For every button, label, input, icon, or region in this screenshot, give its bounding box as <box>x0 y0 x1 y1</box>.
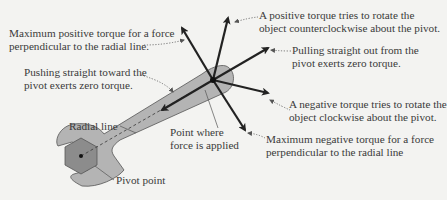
label-radial-line: Radial line <box>69 120 118 133</box>
force-point-dot <box>210 77 216 83</box>
label-pivot-point: Pivot point <box>116 174 165 187</box>
label-pushing: Pushing straight toward the pivot exerts… <box>24 66 147 91</box>
arrow-max-positive <box>182 28 213 80</box>
label-max-negative: Maximum negative torque for a force perp… <box>266 133 434 158</box>
label-positive-torque: A positive torque tries to rotate the ob… <box>259 9 440 34</box>
pivot-dot <box>79 154 83 158</box>
label-max-positive: Maximum positive torque for a force perp… <box>9 27 175 52</box>
arrow-pulling <box>213 48 268 80</box>
label-point-applied: Point where force is applied <box>170 126 239 151</box>
label-negative-torque: A negative torque tries to rotate the ob… <box>289 98 447 123</box>
label-pulling: Pulling straight out from the pivot exer… <box>292 44 419 69</box>
